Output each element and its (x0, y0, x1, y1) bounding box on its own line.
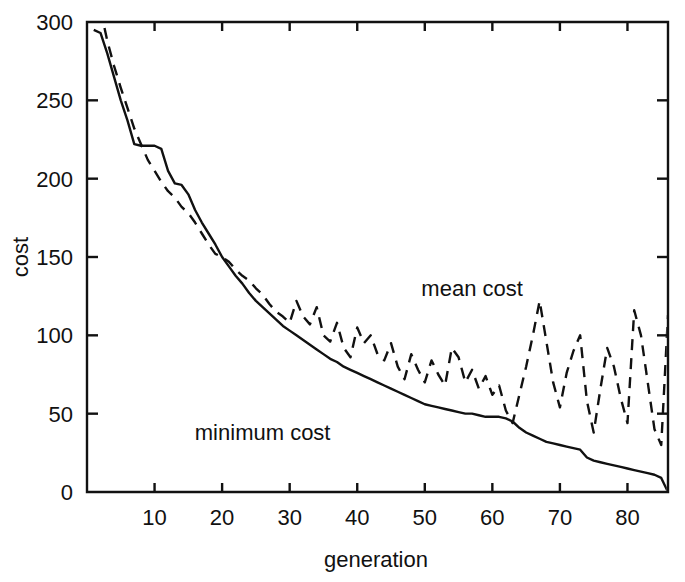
annotation-mean-cost: mean cost (421, 276, 523, 301)
y-tick-label: 150 (36, 245, 73, 270)
x-tick-label: 60 (480, 505, 504, 530)
y-tick-label: 200 (36, 167, 73, 192)
y-axis-ticks: 050100150200250300 (36, 10, 668, 505)
chart-figure: 1020304050607080 050100150200250300 mean… (0, 0, 685, 582)
x-tick-label: 30 (277, 505, 301, 530)
x-tick-label: 50 (413, 505, 437, 530)
y-tick-label: 300 (36, 10, 73, 35)
x-tick-label: 10 (142, 505, 166, 530)
series-line-minimum-cost (94, 30, 668, 492)
y-tick-label: 100 (36, 323, 73, 348)
annotation-minimum-cost: minimum cost (195, 420, 331, 445)
y-tick-label: 250 (36, 88, 73, 113)
y-axis-label: cost (8, 237, 33, 277)
x-axis-ticks: 1020304050607080 (142, 22, 639, 530)
x-tick-label: 40 (345, 505, 369, 530)
y-tick-label: 0 (61, 480, 73, 505)
x-tick-label: 80 (615, 505, 639, 530)
x-tick-label: 70 (548, 505, 572, 530)
series-annotations: mean costminimum cost (195, 276, 523, 445)
data-series-group (94, 9, 668, 492)
y-tick-label: 50 (49, 402, 73, 427)
x-axis-label: generation (324, 547, 428, 572)
series-line-mean-cost (101, 9, 668, 445)
plot-frame (87, 22, 668, 492)
x-tick-label: 20 (210, 505, 234, 530)
line-chart: 1020304050607080 050100150200250300 mean… (0, 0, 685, 582)
